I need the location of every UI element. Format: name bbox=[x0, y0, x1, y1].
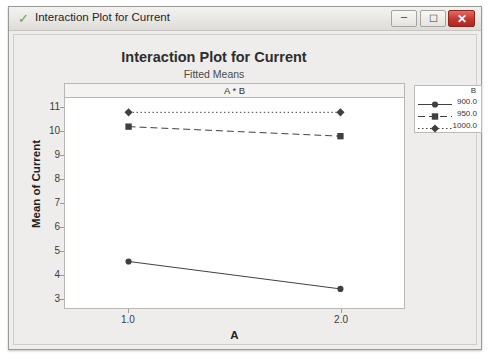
y-axis-title: Mean of Current bbox=[30, 114, 42, 254]
series-1000.0 bbox=[124, 108, 344, 116]
y-tick-mark bbox=[60, 203, 64, 204]
y-tick-mark bbox=[60, 131, 64, 132]
series-950.0 bbox=[125, 123, 343, 139]
minimize-button[interactable]: – bbox=[391, 10, 417, 27]
x-tick-label: 2.0 bbox=[321, 314, 361, 325]
y-tick-mark bbox=[60, 275, 64, 276]
plot-window: ✓ Interaction Plot for Current – ☐ ✕ Int… bbox=[8, 6, 482, 350]
check-icon: ✓ bbox=[18, 12, 31, 25]
close-icon: ✕ bbox=[449, 11, 474, 26]
legend-item-1000.0: 1000.0 bbox=[415, 120, 481, 131]
legend-label: 1000.0 bbox=[453, 121, 477, 130]
window-titlebar[interactable]: ✓ Interaction Plot for Current – ☐ ✕ bbox=[9, 7, 481, 31]
series-900.0 bbox=[125, 258, 343, 292]
maximize-button[interactable]: ☐ bbox=[420, 10, 446, 27]
plot-canvas bbox=[64, 97, 405, 309]
panel-header-strip: A * B bbox=[64, 83, 405, 97]
y-tick-mark bbox=[60, 227, 64, 228]
legend-label: 950.0 bbox=[457, 109, 477, 118]
chart-title: Interaction Plot for Current bbox=[14, 49, 414, 65]
y-tick-mark bbox=[60, 107, 64, 108]
maximize-icon: ☐ bbox=[421, 11, 445, 26]
y-tick-mark bbox=[60, 251, 64, 252]
legend-swatch-diamond-icon bbox=[417, 120, 453, 131]
legend-item-950.0: 950.0 bbox=[415, 108, 481, 119]
y-tick-label: 3 bbox=[34, 293, 60, 304]
chart-subtitle: Fitted Means bbox=[14, 68, 414, 80]
x-axis-ticks: 1.02.0 bbox=[64, 309, 405, 329]
x-axis-title: A bbox=[64, 329, 405, 341]
plot-series-svg bbox=[65, 98, 404, 308]
x-tick-mark bbox=[341, 309, 342, 313]
x-tick-mark bbox=[128, 309, 129, 313]
legend-label: 900.0 bbox=[457, 97, 477, 106]
interaction-plot: Interaction Plot for Current Fitted Mean… bbox=[14, 35, 476, 344]
legend-swatch-square-icon bbox=[417, 108, 453, 119]
y-tick-label: 11 bbox=[34, 101, 60, 112]
close-button[interactable]: ✕ bbox=[448, 10, 475, 27]
window-title: Interaction Plot for Current bbox=[35, 11, 170, 23]
y-tick-label: 4 bbox=[34, 269, 60, 280]
legend-title: B bbox=[471, 86, 476, 95]
x-tick-label: 1.0 bbox=[108, 314, 148, 325]
y-tick-mark bbox=[60, 299, 64, 300]
panel-header-label: A * B bbox=[65, 85, 404, 96]
legend-swatch-circle-icon bbox=[417, 96, 453, 107]
y-tick-mark bbox=[60, 179, 64, 180]
legend-item-900.0: 900.0 bbox=[415, 96, 481, 107]
legend: B 900.0950.01000.0 bbox=[414, 85, 482, 133]
window-client-area: Interaction Plot for Current Fitted Mean… bbox=[13, 34, 477, 345]
y-tick-mark bbox=[60, 155, 64, 156]
minimize-icon: – bbox=[392, 11, 416, 26]
